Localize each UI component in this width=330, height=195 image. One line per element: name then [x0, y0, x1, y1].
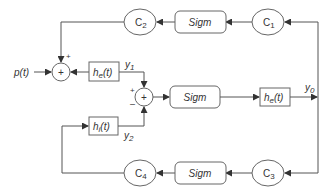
center-sum-sign-top: +: [130, 86, 135, 95]
left-sum-junction: +: [52, 63, 70, 81]
c3-block: C3: [252, 160, 284, 186]
c4-block: C4: [124, 160, 156, 186]
y0-label: y0: [304, 82, 315, 95]
y1-label: y1: [124, 59, 134, 72]
c2-block: C2: [124, 9, 156, 35]
svg-text:Sigm: Sigm: [189, 17, 212, 28]
center-sum-junction: +: [135, 88, 153, 106]
svg-text:+: +: [58, 67, 64, 78]
svg-text:Sigm: Sigm: [189, 168, 212, 179]
sigm-mid-block: Sigm: [170, 86, 220, 108]
he-left-block: he(t): [89, 62, 119, 81]
svg-text:+: +: [141, 92, 147, 103]
sigm-top-block: Sigm: [175, 11, 226, 33]
left-sum-sign-top: +: [66, 52, 71, 61]
hi-block: hi(t): [89, 117, 118, 135]
sigm-bottom-block: Sigm: [175, 162, 226, 184]
c1-block: C1: [252, 9, 284, 35]
block-diagram: C2 Sigm C1 p(t) + + he(t) y1 + + – Sigm …: [0, 0, 330, 195]
he-right-block: he(t): [260, 88, 290, 106]
y2-label: y2: [123, 130, 134, 143]
input-label: p(t): [13, 67, 29, 78]
svg-text:Sigm: Sigm: [184, 92, 207, 103]
y1-connector: [119, 72, 144, 87]
center-sum-sign-bottom: –: [130, 99, 135, 109]
y2-connector: [118, 107, 144, 126]
